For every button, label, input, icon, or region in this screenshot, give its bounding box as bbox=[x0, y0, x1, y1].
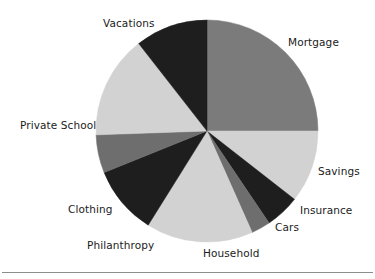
pie-label-private-school: Private School bbox=[20, 119, 96, 131]
pie-chart-figure: Mortgage Savings Insurance Cars Househol… bbox=[0, 0, 375, 279]
pie-label-cars: Cars bbox=[275, 221, 299, 233]
pie-label-philanthropy: Philanthropy bbox=[87, 239, 154, 251]
pie-slices-group bbox=[96, 20, 318, 242]
pie-label-vacations: Vacations bbox=[103, 17, 155, 29]
pie-label-household: Household bbox=[203, 247, 259, 259]
pie-label-insurance: Insurance bbox=[300, 204, 352, 216]
pie-label-savings: Savings bbox=[318, 165, 360, 177]
chart-plot-area: Mortgage Savings Insurance Cars Househol… bbox=[0, 0, 375, 268]
pie-label-mortgage: Mortgage bbox=[288, 36, 339, 48]
pie-label-clothing: Clothing bbox=[68, 203, 112, 215]
footer-divider bbox=[2, 272, 373, 273]
